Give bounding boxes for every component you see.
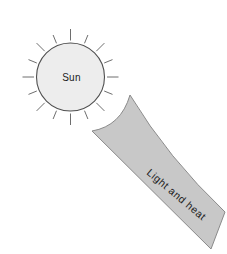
sun-and-beam-diagram: Sun Light and heat bbox=[0, 0, 227, 254]
sun-ray bbox=[85, 111, 88, 119]
sun-ray bbox=[96, 103, 104, 111]
sun-ray bbox=[96, 43, 104, 51]
sun-ray bbox=[104, 91, 112, 94]
diagram-canvas: Sun Light and heat bbox=[0, 0, 227, 254]
sun-ray bbox=[29, 60, 37, 63]
sun-label: Sun bbox=[62, 72, 81, 83]
sun-ray bbox=[53, 111, 56, 119]
sun-ray bbox=[53, 35, 56, 43]
sun-ray bbox=[85, 35, 88, 43]
sun-ray bbox=[29, 91, 37, 94]
sun-ray bbox=[104, 60, 112, 63]
sun-ray bbox=[37, 43, 45, 51]
sun-ray bbox=[37, 103, 45, 111]
